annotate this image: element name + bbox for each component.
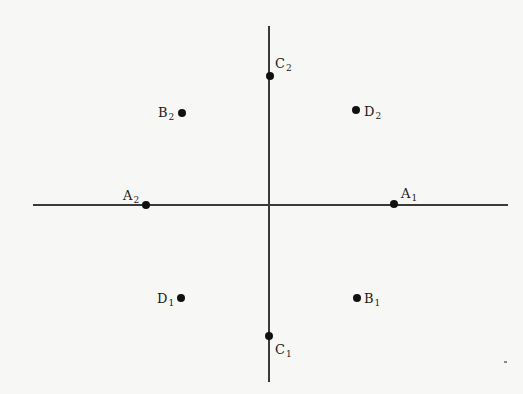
label-d1-sub: 1: [168, 298, 174, 308]
label-c1: C1: [275, 343, 292, 358]
point-a2: [142, 201, 150, 209]
label-d2-sub: 2: [375, 111, 381, 121]
scan-artifact: [504, 361, 507, 363]
label-a2-letter: A: [123, 188, 132, 203]
label-c1-sub: 1: [286, 349, 292, 359]
label-a1: A1: [401, 187, 417, 202]
label-b1-letter: B: [364, 291, 374, 306]
label-b1-sub: 1: [375, 298, 381, 308]
horizontal-axis: [33, 204, 508, 206]
label-d2: D2: [364, 105, 381, 120]
point-d2: [352, 106, 360, 114]
point-c2: [266, 72, 274, 80]
label-b2-letter: B: [158, 105, 168, 120]
label-c2-sub: 2: [286, 63, 292, 73]
label-c2-letter: C: [275, 56, 285, 71]
label-c1-letter: C: [275, 342, 285, 357]
label-b2-sub: 2: [169, 112, 175, 122]
label-d1-letter: D: [157, 291, 167, 306]
point-b2: [178, 109, 186, 117]
diagram-canvas: A1 A2 B1 B2 C1 C2 D1 D2: [0, 0, 523, 394]
label-a2-sub: 2: [133, 195, 139, 205]
label-b2: B2: [158, 106, 174, 121]
label-a1-sub: 1: [411, 193, 417, 203]
point-c1: [265, 332, 273, 340]
label-b1: B1: [364, 292, 380, 307]
label-c2: C2: [275, 57, 292, 72]
point-b1: [353, 294, 361, 302]
label-d2-letter: D: [364, 104, 374, 119]
label-a2: A2: [123, 189, 139, 204]
label-a1-letter: A: [401, 186, 410, 201]
point-a1: [390, 200, 398, 208]
point-d1: [177, 294, 185, 302]
label-d1: D1: [157, 292, 174, 307]
